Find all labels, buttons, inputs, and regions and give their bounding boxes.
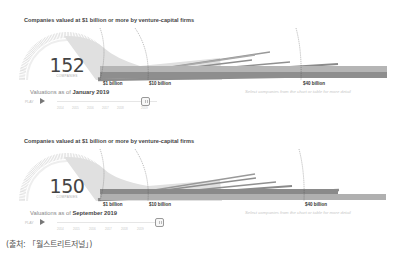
year-tick: 2014 bbox=[57, 227, 64, 231]
year-tick: 2017 bbox=[105, 227, 112, 231]
source-caption: (출처: 「월스트리트저널」) bbox=[6, 238, 92, 249]
chart-panel-january-2019: Companies valued at $1 billion or more b… bbox=[0, 0, 408, 115]
slider-handle[interactable] bbox=[141, 97, 150, 106]
slider-handle[interactable] bbox=[155, 218, 164, 227]
valuation-prefix: Valuations as of bbox=[30, 210, 72, 216]
valuation-date-value: September 2019 bbox=[72, 210, 116, 216]
company-count: 150 bbox=[36, 175, 98, 197]
company-count-label: COMPANIES bbox=[36, 74, 98, 78]
year-tick: 2019 bbox=[137, 227, 144, 231]
axis-label-40b: $40 billion bbox=[305, 202, 327, 207]
year-tick: 2014 bbox=[57, 106, 64, 110]
year-tick: 2018 bbox=[121, 227, 128, 231]
company-count-label: COMPANIES bbox=[36, 195, 98, 199]
valuation-prefix: Valuations as of bbox=[30, 89, 72, 95]
axis-label-1b: $1 billion bbox=[103, 202, 123, 207]
year-tick: 2016 bbox=[87, 106, 94, 110]
bars[interactable] bbox=[98, 52, 387, 80]
year-tick: 2018 bbox=[117, 106, 124, 110]
play-icon[interactable] bbox=[40, 219, 45, 225]
play-label: PLAY bbox=[25, 221, 34, 225]
year-tick: 2017 bbox=[102, 106, 109, 110]
valuation-date: Valuations as of September 2019 bbox=[30, 210, 117, 216]
chart-panel-september-2019: Companies valued at $1 billion or more b… bbox=[0, 120, 408, 235]
hint-text: Select companies from the chart or table… bbox=[245, 89, 351, 94]
axis-label-10b: $10 billion bbox=[149, 202, 171, 207]
axis-label-10b: $10 billion bbox=[149, 81, 171, 86]
year-tick: 2015 bbox=[73, 227, 80, 231]
hint-text: Select companies from the chart or table… bbox=[245, 210, 351, 215]
valuation-date: Valuations as of January 2019 bbox=[30, 89, 109, 95]
year-tick: 2019 bbox=[141, 106, 148, 110]
timeline-slider[interactable] bbox=[57, 222, 157, 223]
play-label: PLAY bbox=[25, 100, 34, 104]
axis-label-1b: $1 billion bbox=[103, 81, 123, 86]
axis-label-40b: $40 billion bbox=[303, 81, 325, 86]
year-tick: 2015 bbox=[72, 106, 79, 110]
play-icon[interactable] bbox=[40, 98, 45, 104]
valuation-date-value: January 2019 bbox=[72, 89, 109, 95]
year-tick: 2016 bbox=[89, 227, 96, 231]
company-count: 152 bbox=[36, 54, 98, 76]
